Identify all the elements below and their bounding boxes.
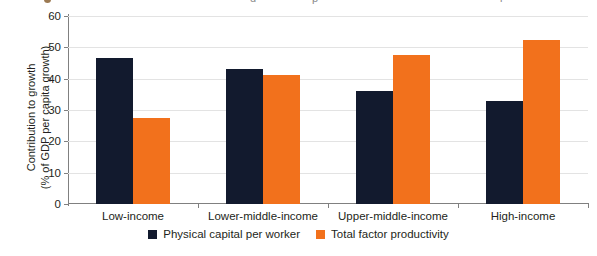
bar-pair	[328, 16, 458, 204]
y-tick-label: 10	[48, 167, 61, 179]
y-tick-mark	[64, 204, 68, 205]
y-tick-label: 30	[48, 104, 61, 116]
bar-total-factor-productivity	[523, 40, 560, 204]
clipped-text-fragment: p	[312, 0, 318, 5]
clipped-legend-marker	[44, 0, 51, 3]
bar-pair	[68, 16, 198, 204]
x-tick-mark	[198, 204, 199, 208]
x-axis-category-label: Lower-middle-income	[198, 210, 328, 223]
clipped-text-fragment: i	[500, 0, 502, 5]
clipped-top-strip: dpit	[0, 0, 597, 9]
x-axis-category-label: Low-income	[68, 210, 198, 223]
category-group: Upper-middle-income	[328, 16, 458, 204]
x-tick-mark	[458, 204, 459, 208]
legend-item: Physical capital per worker	[148, 228, 300, 241]
y-axis-title-line-1: Contribution to growth	[25, 64, 37, 172]
clipped-text-fragment: d	[250, 0, 256, 5]
bar-total-factor-productivity	[263, 75, 300, 204]
bar-pair	[198, 16, 328, 204]
x-tick-mark	[328, 204, 329, 208]
category-group: Lower-middle-income	[198, 16, 328, 204]
bar-physical-capital	[96, 58, 133, 204]
bar-pair	[458, 16, 588, 204]
bar-chart-figure: dpit Contribution to growth (% of GDP pe…	[0, 0, 597, 256]
bar-physical-capital	[226, 69, 263, 204]
y-tick-label: 20	[48, 135, 61, 147]
bar-physical-capital	[356, 91, 393, 204]
x-axis-category-label: High-income	[458, 210, 588, 223]
legend-label: Total factor productivity	[331, 228, 449, 241]
x-tick-mark	[588, 204, 589, 208]
y-tick-label: 40	[48, 73, 61, 85]
y-tick-label: 60	[48, 10, 61, 22]
category-group: Low-income	[68, 16, 198, 204]
bar-total-factor-productivity	[393, 55, 430, 204]
legend-swatch-icon	[148, 230, 157, 239]
plot-area: 0102030405060Low-incomeLower-middle-inco…	[68, 16, 588, 204]
bar-physical-capital	[486, 101, 523, 204]
bar-total-factor-productivity	[133, 118, 170, 204]
y-tick-label: 0	[55, 198, 61, 210]
chart-legend: Physical capital per workerTotal factor …	[0, 228, 597, 241]
legend-item: Total factor productivity	[316, 228, 449, 241]
x-axis-category-label: Upper-middle-income	[328, 210, 458, 223]
category-group: High-income	[458, 16, 588, 204]
legend-label: Physical capital per worker	[163, 228, 300, 241]
legend-swatch-icon	[316, 230, 325, 239]
y-tick-label: 50	[48, 41, 61, 53]
